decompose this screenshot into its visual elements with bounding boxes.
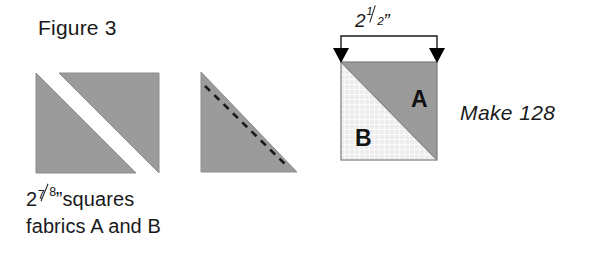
figure-title: Figure 3 (38, 16, 117, 40)
patch-a-label: A (411, 86, 428, 113)
dimension-denominator: 2 (377, 14, 384, 27)
dimension-arrow-left (333, 48, 349, 63)
fraction-seven-eighths: 78 (37, 186, 55, 206)
patch-b-label: B (355, 125, 372, 152)
step-cut-square (36, 73, 159, 173)
figure-caption: 278”squares fabrics A and B (26, 186, 161, 240)
dimension-label: 212” (355, 8, 390, 32)
make-quantity-label: Make 128 (460, 101, 555, 125)
stitching-line (205, 86, 288, 167)
step-stitch-triangle (201, 72, 297, 172)
dimension-bracket (333, 36, 445, 63)
caption-unit-suffix: ”squares (56, 188, 135, 210)
dimension-arrow-right (429, 48, 445, 63)
dimension-whole-number: 2 (355, 10, 366, 31)
quilting-diagram: Figure 3 278”squares fabrics A and B 212… (0, 0, 608, 258)
single-triangle (201, 72, 297, 172)
fraction-one-half: 12 (366, 8, 383, 27)
cut-triangle-upper-right (59, 73, 159, 173)
dimension-inch-mark: ” (383, 10, 390, 31)
caption-line-size: 278”squares (26, 186, 161, 213)
fraction-denominator: 8 (49, 179, 56, 206)
caption-whole-number: 2 (26, 188, 37, 210)
step-finished-block (333, 36, 445, 160)
cut-triangle-lower-left (36, 73, 136, 173)
caption-line-fabrics: fabrics A and B (26, 213, 161, 240)
